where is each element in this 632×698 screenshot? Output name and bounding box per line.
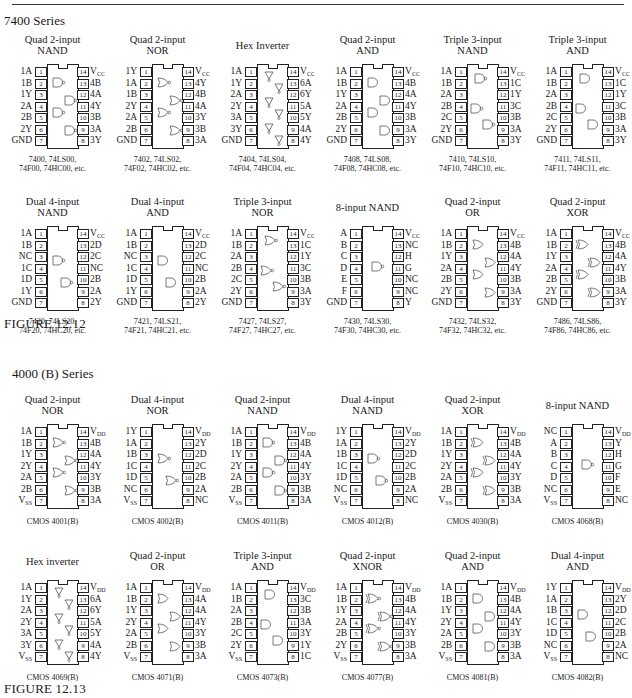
chip-caption-line: CMOS 4011(B) [205, 517, 320, 526]
chip-caption-line: CMOS 4068(B) [520, 517, 632, 526]
pin-number: 14 [602, 583, 614, 593]
gate-symbols-icon [152, 64, 184, 147]
pin-label: Y [405, 297, 412, 307]
pin-label: 1D [2, 274, 32, 284]
chip-title-line: Hex inverter [0, 556, 105, 567]
pin-number: 7 [245, 652, 257, 662]
chip-title-line: NOR [210, 207, 315, 218]
pin-label: 3C [300, 263, 311, 273]
pin-label: 1B [107, 89, 137, 99]
pin-number: 13 [182, 595, 194, 605]
pin-label: 3B [300, 274, 311, 284]
chip-title-line: Quad 2-input [0, 34, 105, 45]
pin-number: 4 [35, 102, 47, 112]
pin-number: 9 [392, 641, 404, 651]
chip-title: 8-input NAND [525, 400, 630, 411]
pin-number: 1 [245, 229, 257, 239]
pin-number: 13 [287, 439, 299, 449]
pin-label: 1Y [107, 286, 137, 296]
pin-number: 4 [35, 264, 47, 274]
pin-number: 8 [602, 298, 614, 308]
pin-label: 2C [90, 251, 101, 261]
pin-label: F [615, 472, 620, 482]
pin-number: 5 [140, 113, 152, 123]
pin-number: 2 [140, 439, 152, 449]
pin-number: 12 [497, 252, 509, 262]
chip-title-line: Triple 3-input [420, 34, 525, 45]
pin-number: 5 [140, 275, 152, 285]
pin-label: 1A [422, 66, 452, 76]
gate-symbols-icon [572, 226, 604, 309]
pin-label: 2B [212, 263, 242, 273]
pin-number: 1 [455, 583, 467, 593]
pin-label: H [615, 449, 622, 459]
pin-label: E [317, 274, 347, 284]
pin-number: 4 [350, 618, 362, 628]
chip-title: Triple 3-inputNOR [210, 196, 315, 218]
chip-caption-line: 7432, 74LS32, [415, 317, 530, 326]
pin-label: 3A [405, 124, 417, 134]
pin-label: VSS [212, 495, 242, 508]
pin-number: 5 [455, 629, 467, 639]
pin-number: 2 [35, 595, 47, 605]
pin-label: 1A [527, 228, 557, 238]
chip-title-line: AND [315, 45, 420, 56]
pin-label: 2C [212, 274, 242, 284]
pin-number: 1 [350, 229, 362, 239]
pin-number: 7 [455, 652, 467, 662]
pin-number: 8 [182, 496, 194, 506]
pin-label: 2Y [212, 461, 242, 471]
pin-number: 2 [350, 439, 362, 449]
pin-number: 8 [602, 652, 614, 662]
pin-number: 10 [392, 275, 404, 285]
pin-number: 8 [392, 496, 404, 506]
pin-label: 4Y [405, 101, 417, 111]
pin-label: VSS [317, 495, 347, 508]
pin-label: 2A [317, 101, 347, 111]
pin-label: 2A [422, 628, 452, 638]
pin-number: 8 [182, 298, 194, 308]
pin-label: GND [2, 135, 32, 145]
pin-number: 9 [182, 287, 194, 297]
pin-label: GND [422, 297, 452, 307]
pin-number: 5 [350, 629, 362, 639]
pin-number: 6 [560, 287, 572, 297]
pin-number: 2 [245, 595, 257, 605]
chip-caption-line: CMOS 4069(B) [0, 673, 110, 682]
pin-number: 6 [140, 641, 152, 651]
pin-label: 4Y [195, 617, 207, 627]
pin-number: 13 [392, 241, 404, 251]
pin-number: 1 [350, 427, 362, 437]
pin-number: 8 [182, 136, 194, 146]
pin-label: 1B [422, 78, 452, 88]
chip-caption-line: CMOS 4073(B) [205, 673, 320, 682]
pin-label: 2B [195, 472, 206, 482]
pin-number: 2 [35, 439, 47, 449]
pin-number: 7 [350, 496, 362, 506]
pin-number: 2 [350, 241, 362, 251]
pin-number: 1 [140, 427, 152, 437]
pin-label: 2Y [195, 438, 207, 448]
pin-number: 10 [182, 629, 194, 639]
chip-caption-line: 7411, 74LS11, [520, 155, 632, 164]
pin-label: 4A [195, 605, 207, 615]
pin-number: 9 [497, 125, 509, 135]
pin-label: 1B [317, 594, 347, 604]
pin-number: 11 [497, 618, 509, 628]
pin-number: 3 [560, 606, 572, 616]
pin-label: 2Y [212, 286, 242, 296]
pin-number: 8 [497, 298, 509, 308]
pin-number: 8 [287, 652, 299, 662]
pin-number: 5 [245, 473, 257, 483]
pin-label: 2C [405, 461, 416, 471]
pin-number: 10 [287, 629, 299, 639]
pin-label: 1B [422, 594, 452, 604]
pin-label: 1B [527, 78, 557, 88]
pin-number: 6 [140, 125, 152, 135]
pin-label: 2A [422, 472, 452, 482]
pin-number: 7 [245, 136, 257, 146]
pin-label: 3B [405, 112, 416, 122]
chip-part-numbers: 7410, 74LS10,74F10, 74HC10, etc. [415, 155, 530, 173]
pin-label: 4A [615, 251, 627, 261]
pin-number: 2 [350, 79, 362, 89]
